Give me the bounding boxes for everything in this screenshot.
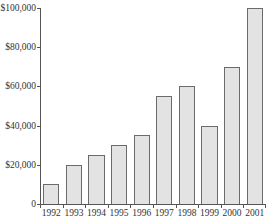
bar-1996 bbox=[134, 135, 150, 204]
x-tick-label: 1997 bbox=[153, 208, 175, 218]
y-tick-label: $40,000 bbox=[5, 121, 36, 131]
x-tick-label: 1995 bbox=[108, 208, 130, 218]
x-tick-label: 1993 bbox=[63, 208, 85, 218]
x-tick-label: 1998 bbox=[176, 208, 198, 218]
x-tick-label: 2001 bbox=[244, 208, 266, 218]
x-tick bbox=[265, 205, 266, 208]
x-tick-label: 1992 bbox=[40, 208, 62, 218]
x-tick-label: 1999 bbox=[199, 208, 221, 218]
bar-1993 bbox=[66, 165, 82, 204]
y-tick-label: $20,000 bbox=[5, 160, 36, 170]
y-tick bbox=[37, 47, 40, 48]
bar-1995 bbox=[111, 145, 127, 204]
bar-1998 bbox=[179, 86, 195, 204]
x-tick-label: 1996 bbox=[131, 208, 153, 218]
bar-1992 bbox=[43, 184, 59, 204]
y-tick-label: $100,000 bbox=[0, 3, 36, 13]
y-tick bbox=[37, 126, 40, 127]
y-tick bbox=[37, 165, 40, 166]
bar-1997 bbox=[156, 96, 172, 204]
bar-2001 bbox=[247, 8, 263, 204]
bar-1994 bbox=[88, 155, 104, 204]
y-tick-label: $80,000 bbox=[5, 42, 36, 52]
y-tick bbox=[37, 86, 40, 87]
y-tick-label: $60,000 bbox=[5, 81, 36, 91]
bar-2000 bbox=[224, 67, 240, 204]
y-tick-label: 0 bbox=[31, 199, 36, 209]
x-tick-label: 1994 bbox=[86, 208, 108, 218]
y-tick bbox=[37, 8, 40, 9]
bar-1999 bbox=[201, 126, 217, 204]
x-tick-label: 2000 bbox=[221, 208, 243, 218]
y-axis bbox=[40, 8, 41, 205]
